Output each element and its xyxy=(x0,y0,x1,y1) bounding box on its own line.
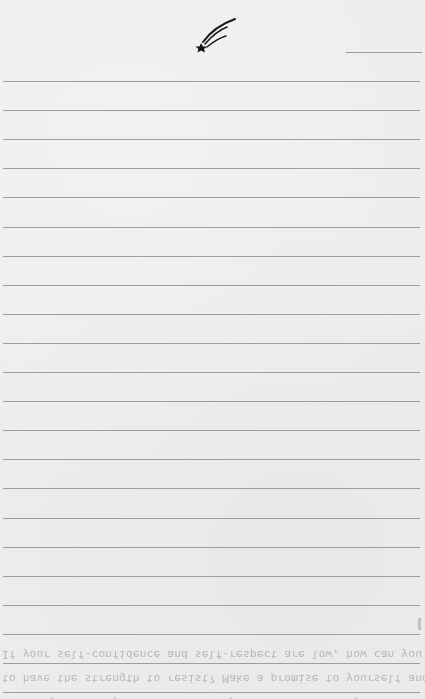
bleed-through-line-3: it. Help somebody in need. Develop a tal… xyxy=(0,689,425,699)
ruled-line[interactable] xyxy=(3,401,420,402)
ruled-line[interactable] xyxy=(3,605,420,606)
ruled-line[interactable] xyxy=(3,488,420,489)
ruled-line[interactable] xyxy=(3,110,420,111)
ruled-line[interactable] xyxy=(3,372,420,373)
shooting-star-icon xyxy=(193,17,237,53)
ruled-line[interactable] xyxy=(3,634,420,635)
ruled-line[interactable] xyxy=(3,227,420,228)
ruled-line[interactable] xyxy=(3,256,420,257)
ruled-line[interactable] xyxy=(3,168,420,169)
ruled-line[interactable] xyxy=(3,459,420,460)
bleed-through-line-2: to have the strength to resist? Make a p… xyxy=(0,665,425,691)
ruled-line[interactable] xyxy=(3,343,420,344)
date-line[interactable] xyxy=(346,52,422,53)
bleed-through-line-1: If your self-confidence and self-respect… xyxy=(0,641,425,667)
page-edge-mark xyxy=(418,618,421,630)
ruled-line[interactable] xyxy=(3,547,420,548)
ruled-line[interactable] xyxy=(3,518,420,519)
ruled-line[interactable] xyxy=(3,430,420,431)
ruled-line[interactable] xyxy=(3,314,420,315)
ruled-line[interactable] xyxy=(3,139,420,140)
ruled-line[interactable] xyxy=(3,285,420,286)
ruled-line[interactable] xyxy=(3,197,420,198)
ruled-line[interactable] xyxy=(3,81,420,82)
ruled-line[interactable] xyxy=(3,576,420,577)
notebook-page: If your self-confidence and self-respect… xyxy=(0,0,425,699)
